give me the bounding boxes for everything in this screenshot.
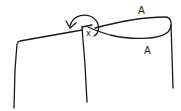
loop-bottom-label: A	[144, 45, 151, 56]
hand-drawn-diagram: x A A	[0, 0, 181, 111]
pivot-label: x	[86, 29, 91, 38]
pivot-corner	[82, 25, 92, 27]
right-vertical-edge	[171, 25, 173, 88]
rotation-arrow-icon	[70, 15, 99, 36]
middle-vertical-edge	[82, 27, 87, 102]
twisted-loop	[88, 17, 171, 38]
loop-top-label: A	[138, 5, 145, 16]
left-panel-top-edge	[18, 30, 82, 43]
left-panel-left-edge	[14, 44, 17, 108]
